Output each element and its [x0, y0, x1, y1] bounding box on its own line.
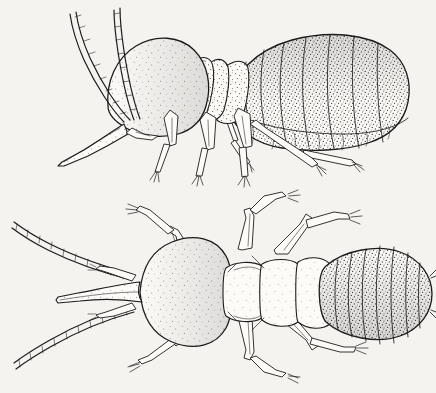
dorsal-thorax: [223, 258, 333, 329]
illustration-plate: [0, 0, 436, 393]
termite-plate-svg: [0, 0, 436, 393]
